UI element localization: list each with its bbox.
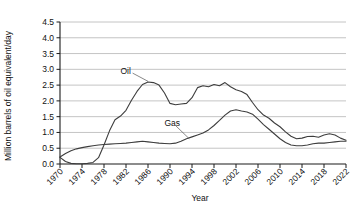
y-tick-label: 2.5 xyxy=(42,80,54,90)
gas-label: Gas xyxy=(165,118,181,128)
y-tick-label: 4.5 xyxy=(42,17,54,27)
y-tick-label: 1.0 xyxy=(42,127,54,137)
x-tick-label: 2002 xyxy=(220,166,241,187)
x-tick-label: 1982 xyxy=(110,166,131,187)
x-tick-label: 1994 xyxy=(176,166,197,187)
x-tick-label: 2010 xyxy=(264,166,285,187)
chart-container: 0.00.51.01.52.02.53.03.54.04.5 197019741… xyxy=(0,0,364,213)
oil-gas-line-chart: 0.00.51.01.52.02.53.03.54.04.5 197019741… xyxy=(0,0,364,213)
x-axis-title: Year xyxy=(191,193,208,203)
x-tick-label: 1974 xyxy=(66,166,87,187)
y-tick-label: 0.5 xyxy=(42,143,54,153)
oil-label-leader xyxy=(133,73,148,81)
x-tick-label: 1990 xyxy=(154,166,175,187)
oil-label: Oil xyxy=(121,66,132,76)
x-tick-label: 2006 xyxy=(242,166,263,187)
y-tick-label: 3.0 xyxy=(42,64,54,74)
y-tick-label: 4.0 xyxy=(42,33,54,43)
x-tick-label: 1998 xyxy=(198,166,219,187)
y-tick-labels: 0.00.51.01.52.02.53.03.54.04.5 xyxy=(42,17,54,169)
series-line-oil xyxy=(60,82,346,164)
x-tick-label: 2018 xyxy=(308,166,329,187)
data-series-group xyxy=(60,82,346,164)
y-axis-title: Million barrels of oil equivalent/day xyxy=(3,30,13,161)
y-tick-label: 1.5 xyxy=(42,112,54,122)
x-tick-label: 1970 xyxy=(44,166,65,187)
y-tick-label: 3.5 xyxy=(42,49,54,59)
x-tick-labels: 1970197419781982198619901994199820022006… xyxy=(44,166,351,187)
x-tick-label: 2022 xyxy=(330,166,351,187)
x-tick-label: 1978 xyxy=(88,166,109,187)
x-axis xyxy=(60,164,346,168)
y-tick-label: 2.0 xyxy=(42,96,54,106)
gridlines-group xyxy=(60,22,346,148)
x-tick-label: 2014 xyxy=(286,166,307,187)
y-axis xyxy=(57,22,61,164)
x-tick-label: 1986 xyxy=(132,166,153,187)
y-tick-label: 0.0 xyxy=(42,159,54,169)
